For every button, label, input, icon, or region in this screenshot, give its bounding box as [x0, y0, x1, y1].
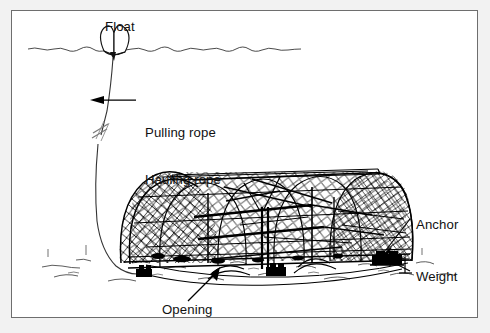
label-anchor: Anchor [416, 217, 458, 233]
fish-trap-illustration [12, 11, 478, 318]
waterline [28, 47, 301, 51]
figure-page: Float Pulling rope Hauling rope Anchor W… [0, 0, 490, 333]
label-weight: Weight [416, 269, 457, 285]
label-float: Float [105, 19, 135, 35]
label-hauling-rope: Hauling rope [145, 172, 221, 188]
label-opening: Opening [162, 302, 213, 318]
label-pulling-rope: Pulling rope [145, 125, 221, 141]
label-pulling-hauling-rope: Pulling rope Hauling rope [145, 94, 221, 218]
figure-frame: Float Pulling rope Hauling rope Anchor W… [11, 10, 478, 318]
rope-break-symbol [92, 121, 109, 141]
anchor-block-left [136, 265, 152, 277]
